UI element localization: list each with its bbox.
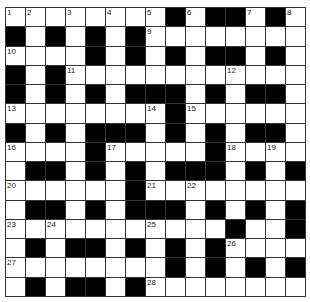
crossword-cell[interactable] [46,239,65,257]
crossword-cell[interactable] [146,124,165,142]
crossword-cell[interactable]: 18 [226,143,245,161]
crossword-cell[interactable] [246,239,265,257]
crossword-cell[interactable] [106,239,125,257]
crossword-cell[interactable] [66,85,85,103]
crossword-cell[interactable] [266,66,285,84]
crossword-cell[interactable] [166,27,185,45]
crossword-cell[interactable] [66,27,85,45]
crossword-cell[interactable] [266,162,285,180]
crossword-cell[interactable] [186,239,205,257]
crossword-cell[interactable]: 22 [186,181,205,199]
crossword-cell[interactable] [226,85,245,103]
crossword-cell[interactable] [146,258,165,276]
crossword-cell[interactable]: 17 [106,143,125,161]
crossword-cell[interactable] [46,143,65,161]
crossword-cell[interactable] [106,181,125,199]
crossword-cell[interactable]: 27 [6,258,25,276]
crossword-cell[interactable] [286,278,305,296]
crossword-cell[interactable] [106,220,125,238]
crossword-cell[interactable]: 12 [226,66,245,84]
crossword-cell[interactable] [266,258,285,276]
crossword-cell[interactable] [186,27,205,45]
crossword-cell[interactable]: 4 [106,8,125,26]
crossword-cell[interactable] [146,239,165,257]
crossword-cell[interactable] [246,220,265,238]
crossword-cell[interactable]: 5 [146,8,165,26]
crossword-cell[interactable]: 11 [66,66,85,84]
crossword-cell[interactable] [286,27,305,45]
crossword-cell[interactable] [6,201,25,219]
crossword-cell[interactable] [166,181,185,199]
crossword-cell[interactable] [46,47,65,65]
crossword-cell[interactable] [26,47,45,65]
crossword-cell[interactable] [186,278,205,296]
crossword-cell[interactable]: 16 [6,143,25,161]
crossword-cell[interactable] [106,85,125,103]
crossword-cell[interactable] [166,220,185,238]
crossword-cell[interactable] [26,66,45,84]
crossword-cell[interactable] [26,181,45,199]
crossword-cell[interactable] [246,278,265,296]
crossword-cell[interactable] [246,66,265,84]
crossword-cell[interactable]: 6 [186,8,205,26]
crossword-cell[interactable] [286,239,305,257]
crossword-cell[interactable] [66,220,85,238]
crossword-cell[interactable] [246,27,265,45]
crossword-cell[interactable] [206,181,225,199]
crossword-cell[interactable] [166,66,185,84]
crossword-cell[interactable] [26,27,45,45]
crossword-cell[interactable] [66,143,85,161]
crossword-cell[interactable]: 14 [146,104,165,122]
crossword-cell[interactable]: 15 [186,104,205,122]
crossword-cell[interactable] [46,8,65,26]
crossword-cell[interactable] [86,66,105,84]
crossword-cell[interactable] [46,104,65,122]
crossword-cell[interactable] [146,162,165,180]
crossword-cell[interactable] [66,47,85,65]
crossword-cell[interactable] [66,104,85,122]
crossword-cell[interactable] [6,278,25,296]
crossword-cell[interactable] [6,239,25,257]
crossword-cell[interactable]: 3 [66,8,85,26]
crossword-cell[interactable] [26,124,45,142]
crossword-cell[interactable]: 21 [146,181,165,199]
crossword-cell[interactable] [166,278,185,296]
crossword-cell[interactable] [266,278,285,296]
crossword-cell[interactable] [106,258,125,276]
crossword-cell[interactable] [226,181,245,199]
crossword-cell[interactable]: 19 [266,143,285,161]
crossword-cell[interactable] [226,124,245,142]
crossword-cell[interactable] [286,104,305,122]
crossword-cell[interactable] [106,47,125,65]
crossword-cell[interactable] [206,104,225,122]
crossword-cell[interactable] [266,220,285,238]
crossword-cell[interactable] [286,143,305,161]
crossword-cell[interactable]: 13 [6,104,25,122]
crossword-cell[interactable] [106,27,125,45]
crossword-cell[interactable] [26,104,45,122]
crossword-cell[interactable] [186,124,205,142]
crossword-cell[interactable] [206,27,225,45]
crossword-cell[interactable] [186,201,205,219]
crossword-cell[interactable] [166,143,185,161]
crossword-cell[interactable]: 8 [286,8,305,26]
crossword-cell[interactable] [186,47,205,65]
crossword-cell[interactable] [186,85,205,103]
crossword-cell[interactable] [86,8,105,26]
crossword-cell[interactable] [226,278,245,296]
crossword-cell[interactable] [186,220,205,238]
crossword-cell[interactable] [146,66,165,84]
crossword-cell[interactable] [66,124,85,142]
crossword-cell[interactable]: 7 [246,8,265,26]
crossword-cell[interactable] [246,181,265,199]
crossword-cell[interactable] [206,278,225,296]
crossword-cell[interactable] [106,162,125,180]
crossword-cell[interactable] [146,143,165,161]
crossword-cell[interactable] [286,66,305,84]
crossword-cell[interactable] [126,66,145,84]
crossword-cell[interactable] [266,27,285,45]
crossword-cell[interactable]: 26 [226,239,245,257]
crossword-cell[interactable]: 20 [6,181,25,199]
crossword-cell[interactable]: 23 [6,220,25,238]
crossword-cell[interactable] [86,220,105,238]
